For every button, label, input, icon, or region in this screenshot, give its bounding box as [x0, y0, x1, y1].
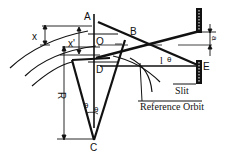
x-dimension: [40, 25, 92, 45]
arc-right-1: [113, 56, 160, 82]
point-e-label: E: [203, 61, 210, 72]
x-prime-symbol: x': [68, 38, 75, 49]
theta-symbol-c-left: θ: [84, 101, 89, 110]
point-d-label: D: [96, 64, 103, 75]
middle-orbit-arc: [25, 46, 96, 76]
point-c-label: C: [90, 142, 97, 153]
point-o-label: O: [96, 36, 104, 47]
x-symbol: x: [32, 31, 37, 42]
reference-orbit-leader: [140, 63, 142, 101]
slit-jaws: [196, 8, 202, 84]
point-b-label: B: [130, 26, 137, 37]
theta-symbol-e: θ: [167, 55, 172, 64]
reference-orbit-label: Reference Orbit: [140, 101, 204, 112]
r-symbol: R: [56, 92, 67, 99]
slit-label: Slit: [175, 85, 189, 96]
slit-geometry-diagram: A B O D E C x x' R l θ θ θ a Slit Refere…: [0, 0, 227, 153]
beam-rays: [96, 22, 212, 66]
theta-symbol-c-right: θ: [94, 105, 99, 114]
l-symbol: l: [160, 55, 163, 66]
point-a-label: A: [84, 11, 91, 22]
a-symbol: a: [210, 36, 219, 41]
